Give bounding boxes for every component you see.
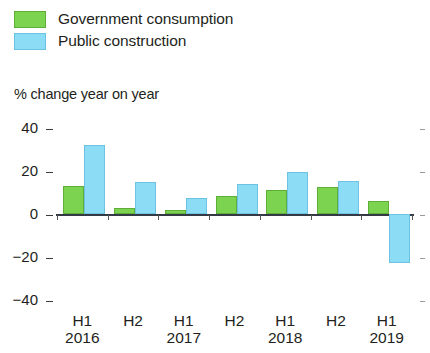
x-axis-label: H12019 <box>352 312 422 346</box>
bar-public-construction <box>84 145 105 214</box>
y-tick-label: 20 <box>0 163 38 178</box>
y-tick-label: 40 <box>0 120 38 135</box>
bar-government-consumption <box>368 201 389 214</box>
bar-public-construction <box>389 214 410 263</box>
x-label-year: 2019 <box>352 329 422 346</box>
bar-public-construction <box>135 182 156 214</box>
x-axis-tick <box>57 215 58 220</box>
x-label-year: 2016 <box>47 329 117 346</box>
x-label-year: 2018 <box>250 329 320 346</box>
x-axis-tick <box>209 215 210 220</box>
x-axis-tick <box>311 215 312 220</box>
bar-public-construction <box>287 172 308 214</box>
x-axis-tick <box>158 215 159 220</box>
y-tick-label: 0 <box>0 206 38 221</box>
y-tick-mark-right <box>420 129 425 130</box>
y-tick-mark <box>46 129 53 130</box>
y-tick-mark-right <box>420 172 425 173</box>
bar-public-construction <box>237 184 258 214</box>
bar-government-consumption <box>165 210 186 214</box>
x-label-period: H1 <box>352 312 422 329</box>
x-axis-tick <box>260 215 261 220</box>
x-label-year: 2017 <box>149 329 219 346</box>
bar-government-consumption <box>266 190 287 214</box>
y-tick-label: −20 <box>0 249 38 264</box>
bar-government-consumption <box>317 187 338 214</box>
y-tick-mark-right <box>420 215 425 216</box>
bar-public-construction <box>338 181 359 214</box>
bar-government-consumption <box>114 208 135 214</box>
x-axis-tick <box>412 215 413 220</box>
x-axis-tick <box>361 215 362 220</box>
y-tick-label: −40 <box>0 292 38 307</box>
x-axis-tick <box>108 215 109 220</box>
y-tick-mark-right <box>420 258 425 259</box>
bar-government-consumption <box>63 186 84 214</box>
y-tick-mark-right <box>420 301 425 302</box>
y-tick-mark <box>46 258 53 259</box>
y-tick-mark <box>46 301 53 302</box>
bar-public-construction <box>186 198 207 214</box>
y-tick-mark <box>46 172 53 173</box>
y-tick-mark <box>46 215 53 216</box>
bar-government-consumption <box>216 196 237 214</box>
chart-plot-area: 40200−20−40 H12016H2H12017H2H12018H2H120… <box>0 0 430 353</box>
